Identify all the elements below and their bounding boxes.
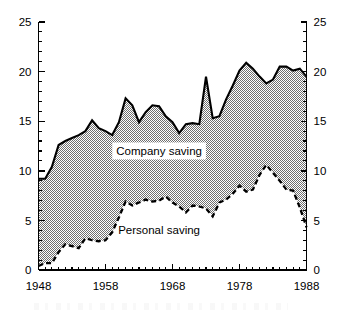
tick-label: 1958	[93, 280, 119, 292]
right-axis-tick-labels: 0510152025	[314, 16, 327, 276]
tick-label: 1968	[160, 280, 186, 292]
bottom-axis-tick-labels: 19481958196819781988	[26, 280, 320, 292]
personal-saving-label: Personal saving	[118, 224, 200, 236]
tick-label: 10	[314, 165, 327, 177]
bottom-axis-ticks	[39, 264, 307, 271]
tick-label: 0	[25, 264, 31, 276]
tick-label: 1988	[294, 280, 320, 292]
tick-label: 20	[314, 66, 327, 78]
tick-label: 15	[314, 115, 327, 127]
tick-label: 5	[314, 215, 320, 227]
tick-label: 10	[19, 165, 32, 177]
tick-label: 20	[19, 66, 32, 78]
tick-label: 25	[314, 16, 327, 28]
left-axis-tick-labels: 0510152025	[19, 16, 32, 276]
company-saving-annotation: Company saving	[112, 142, 206, 159]
tick-label: 5	[25, 215, 31, 227]
tick-label: 1978	[227, 280, 253, 292]
personal-saving-annotation: Personal saving	[118, 224, 200, 236]
company-saving-label: Company saving	[116, 145, 202, 157]
tick-label: 25	[19, 16, 32, 28]
tick-label: 15	[19, 115, 32, 127]
chart-canvas: 0510152025 0510152025 194819581968197819…	[0, 0, 344, 311]
savings-area-chart: 0510152025 0510152025 194819581968197819…	[0, 0, 344, 311]
cropped-caption-artifact	[34, 303, 288, 310]
tick-label: 0	[314, 264, 320, 276]
tick-label: 1948	[26, 280, 52, 292]
